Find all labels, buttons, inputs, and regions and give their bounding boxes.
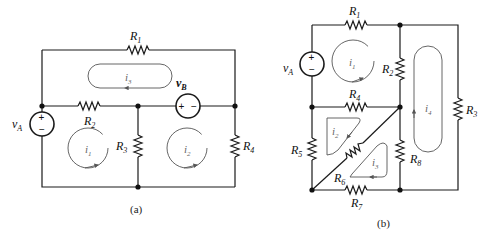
svg-text:R8: R8: [409, 152, 421, 168]
svg-text:i3: i3: [372, 156, 379, 171]
svg-text:i1: i1: [349, 56, 356, 71]
svg-text:vA: vA: [12, 117, 22, 133]
resistor-r7-b: [345, 186, 367, 194]
svg-text:R1: R1: [348, 4, 360, 20]
svg-text:i3: i3: [125, 71, 132, 86]
svg-text:+: +: [309, 52, 315, 63]
circuit-figure: + − + − R1 R2 R3 R4 vA vB i3 i1 i2 (a): [0, 0, 491, 238]
svg-text:R4: R4: [348, 87, 360, 103]
svg-text:R4: R4: [242, 139, 254, 155]
svg-text:R2: R2: [381, 62, 393, 78]
svg-text:i4: i4: [425, 102, 432, 117]
svg-text:R1: R1: [129, 29, 141, 45]
resistor-r2-b: [396, 58, 404, 80]
resistor-r5-b: [308, 138, 316, 160]
svg-text:i2: i2: [332, 125, 339, 140]
svg-text:−: −: [309, 64, 315, 75]
resistor-r1-a: [127, 46, 149, 54]
svg-text:vB: vB: [176, 76, 187, 92]
svg-text:i2: i2: [184, 143, 191, 158]
svg-text:−: −: [39, 124, 45, 135]
resistor-r4-a: [231, 135, 239, 157]
circuit-a: + − + − R1 R2 R3 R4 vA vB i3 i1 i2 (a): [12, 29, 254, 216]
caption-a: (a): [130, 203, 143, 216]
svg-text:+: +: [39, 112, 45, 123]
mesh-loop-i1-b: [332, 40, 374, 82]
svg-text:+: +: [179, 101, 185, 112]
resistor-r4-b: [345, 103, 367, 111]
svg-text:i1: i1: [85, 143, 92, 158]
resistor-r1-b: [345, 21, 367, 29]
caption-b: (b): [377, 217, 390, 230]
svg-text:vA: vA: [283, 61, 293, 77]
resistor-r6-b: [346, 143, 363, 158]
mesh-loop-i3-a: [100, 64, 172, 88]
resistor-r3-a: [134, 135, 142, 157]
resistor-r3-b: [454, 98, 462, 120]
svg-text:R5: R5: [290, 143, 302, 159]
resistor-r8-b: [396, 140, 404, 162]
mesh-loop-i4-b: [414, 46, 442, 152]
resistor-r2-a: [78, 102, 100, 110]
svg-text:R3: R3: [115, 139, 127, 155]
circuit-b: + − R1 R2 R3 R4 R5 R6 R7 R8 vA i1 i2 i3 …: [283, 4, 477, 230]
svg-text:R2: R2: [83, 114, 95, 130]
svg-text:−: −: [191, 101, 197, 112]
svg-text:R7: R7: [350, 196, 363, 212]
svg-text:R6: R6: [333, 171, 345, 187]
svg-text:R3: R3: [465, 103, 477, 119]
